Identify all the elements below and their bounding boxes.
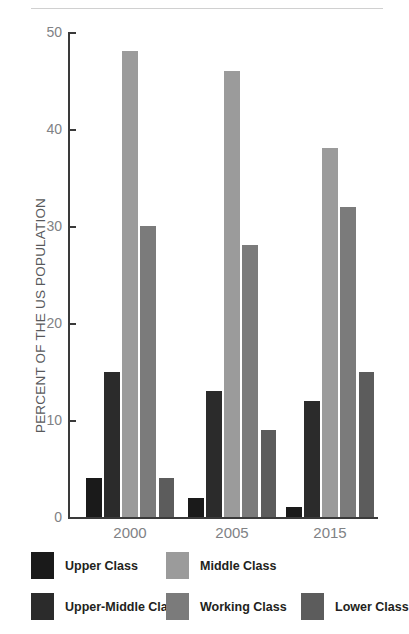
bar xyxy=(104,372,120,518)
bar xyxy=(261,430,277,517)
legend-item[interactable]: Working Class xyxy=(166,593,287,620)
legend-label: Upper Class xyxy=(65,559,138,573)
bar xyxy=(340,207,356,517)
legend-swatch xyxy=(166,552,189,579)
y-tick-label: 20 xyxy=(30,316,62,330)
legend-label: Middle Class xyxy=(200,559,276,573)
legend-swatch xyxy=(31,552,54,579)
bar xyxy=(359,372,375,518)
y-tick-mark xyxy=(69,517,76,519)
bar xyxy=(286,507,302,517)
x-tick-label: 2000 xyxy=(85,524,175,541)
legend-item[interactable]: Upper-Middle Class xyxy=(31,593,182,620)
plot-area: PERCENT OF THE US POPULATION 01020304050… xyxy=(0,18,387,538)
bar xyxy=(304,401,320,517)
y-tick-label: 0 xyxy=(30,510,62,524)
legend-label: Lower Class xyxy=(335,600,409,614)
x-axis-line xyxy=(68,517,378,519)
x-tick-label: 2015 xyxy=(285,524,375,541)
bar xyxy=(122,51,138,517)
legend-item[interactable]: Upper Class xyxy=(31,552,138,579)
bar xyxy=(159,478,175,517)
bar xyxy=(86,478,102,517)
bar xyxy=(242,245,258,517)
y-tick-label: 50 xyxy=(30,25,62,39)
legend-swatch xyxy=(166,593,189,620)
y-tick-label: 10 xyxy=(30,413,62,427)
bars-layer xyxy=(68,32,378,517)
y-tick-label: 30 xyxy=(30,219,62,233)
y-tick-label: 40 xyxy=(30,122,62,136)
legend-label: Working Class xyxy=(200,600,287,614)
legend-item[interactable]: Middle Class xyxy=(166,552,276,579)
bar xyxy=(322,148,338,517)
legend-label: Upper-Middle Class xyxy=(65,600,182,614)
legend-swatch xyxy=(31,593,54,620)
bar xyxy=(206,391,222,517)
top-divider-rule xyxy=(31,8,383,9)
bar xyxy=(224,71,240,517)
bar xyxy=(188,498,204,517)
legend-item[interactable]: Lower Class xyxy=(301,593,409,620)
chart-legend: Upper ClassMiddle ClassUpper-Middle Clas… xyxy=(0,548,387,634)
bar xyxy=(140,226,156,517)
legend-swatch xyxy=(301,593,324,620)
x-tick-label: 2005 xyxy=(187,524,277,541)
